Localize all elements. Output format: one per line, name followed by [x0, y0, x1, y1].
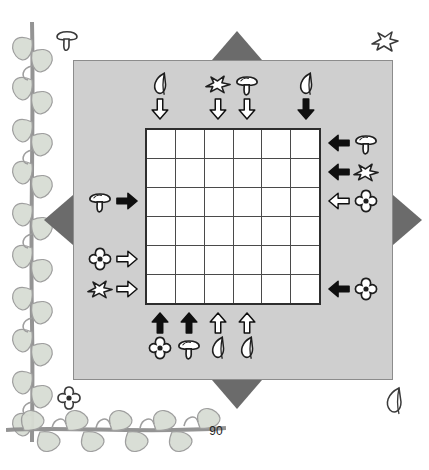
grid-cell[interactable]: [262, 159, 290, 187]
leaf-icon: [205, 336, 231, 360]
grid-cell[interactable]: [176, 130, 204, 158]
corner-bird-top-right-icon: [370, 28, 400, 54]
arrow-down-outline: [208, 98, 228, 120]
mushroom-icon: [176, 336, 202, 360]
arrow-right-filled: [116, 191, 138, 211]
arrow-left-outline: [328, 191, 350, 211]
clue-left-row-3: [85, 186, 141, 216]
arrow-left-filled: [328, 162, 350, 182]
grid-cell[interactable]: [147, 217, 175, 245]
vine-border-bottom: [6, 400, 226, 456]
grid-cell[interactable]: [234, 275, 262, 303]
grid-cell[interactable]: [176, 275, 204, 303]
marker-left-triangle: [44, 195, 73, 245]
clue-bottom-col-2: [173, 309, 205, 367]
clue-right-row-6: [325, 274, 381, 304]
grid-cell[interactable]: [291, 188, 319, 216]
grid-cell[interactable]: [205, 159, 233, 187]
arrow-down-filled: [296, 98, 316, 120]
grid-cell[interactable]: [205, 130, 233, 158]
grid-cell[interactable]: [176, 159, 204, 187]
flower-icon: [353, 277, 379, 301]
clue-top-col-4: [231, 66, 263, 124]
grid-cell[interactable]: [176, 217, 204, 245]
grid-cell[interactable]: [205, 217, 233, 245]
marker-bottom-triangle: [212, 380, 262, 409]
grid-cell[interactable]: [234, 217, 262, 245]
clue-right-row-3: [325, 186, 381, 216]
flower-icon: [87, 247, 113, 271]
bird-icon: [353, 160, 379, 184]
grid-cell[interactable]: [291, 275, 319, 303]
grid-cell[interactable]: [234, 188, 262, 216]
arrow-right-outline: [116, 249, 138, 269]
mushroom-icon: [87, 189, 113, 213]
grid-cell[interactable]: [234, 246, 262, 274]
grid-cell[interactable]: [147, 130, 175, 158]
arrow-down-outline: [150, 98, 170, 120]
grid-cell[interactable]: [205, 246, 233, 274]
grid-cell[interactable]: [147, 159, 175, 187]
grid-cell[interactable]: [291, 217, 319, 245]
marker-top-triangle: [212, 31, 262, 60]
grid-cell[interactable]: [176, 188, 204, 216]
grid-cell[interactable]: [205, 188, 233, 216]
leaf-icon: [293, 72, 319, 96]
grid-cell[interactable]: [234, 130, 262, 158]
grid-cell[interactable]: [291, 159, 319, 187]
arrow-up-filled: [179, 312, 199, 334]
marker-right-triangle: [393, 195, 422, 245]
flower-icon: [353, 189, 379, 213]
arrow-up-outline: [208, 312, 228, 334]
grid-cell[interactable]: [291, 246, 319, 274]
corner-flower-bottom-left-icon: [56, 385, 82, 411]
corner-leaf-bottom-right-icon: [383, 386, 405, 416]
arrow-up-filled: [150, 312, 170, 334]
clue-top-col-3: [202, 66, 234, 124]
puzzle-grid[interactable]: [145, 128, 321, 305]
bird-icon: [205, 72, 231, 96]
grid-cell[interactable]: [262, 130, 290, 158]
grid-cell[interactable]: [147, 275, 175, 303]
clue-bottom-col-1: [144, 309, 176, 367]
grid-cell[interactable]: [176, 246, 204, 274]
grid-cell[interactable]: [262, 246, 290, 274]
grid-cell[interactable]: [147, 246, 175, 274]
arrow-up-outline: [237, 312, 257, 334]
grid-cell[interactable]: [262, 188, 290, 216]
grid-cell[interactable]: [262, 217, 290, 245]
grid-cell[interactable]: [262, 275, 290, 303]
arrow-left-filled: [328, 133, 350, 153]
flower-icon: [147, 336, 173, 360]
clue-top-col-6: [290, 66, 322, 124]
mushroom-icon: [234, 72, 260, 96]
clue-left-row-5: [85, 244, 141, 274]
grid-cell[interactable]: [291, 130, 319, 158]
clue-right-row-2: [325, 157, 381, 187]
clue-top-col-1: [144, 66, 176, 124]
clue-bottom-col-3: [202, 309, 234, 367]
clue-bottom-col-4: [231, 309, 263, 367]
page-number: 90: [196, 424, 236, 438]
grid-cell[interactable]: [147, 188, 175, 216]
grid-cell[interactable]: [205, 275, 233, 303]
leaf-icon: [147, 72, 173, 96]
mushroom-icon: [353, 131, 379, 155]
arrow-right-outline: [116, 279, 138, 299]
arrow-left-filled: [328, 279, 350, 299]
leaf-icon: [234, 336, 260, 360]
clue-left-row-6: [85, 274, 141, 304]
arrow-down-outline: [237, 98, 257, 120]
grid-cell[interactable]: [234, 159, 262, 187]
corner-mushroom-top-left-icon: [54, 26, 80, 52]
bird-icon: [87, 277, 113, 301]
puzzle-page: 90: [0, 0, 429, 470]
clue-right-row-1: [325, 128, 381, 158]
